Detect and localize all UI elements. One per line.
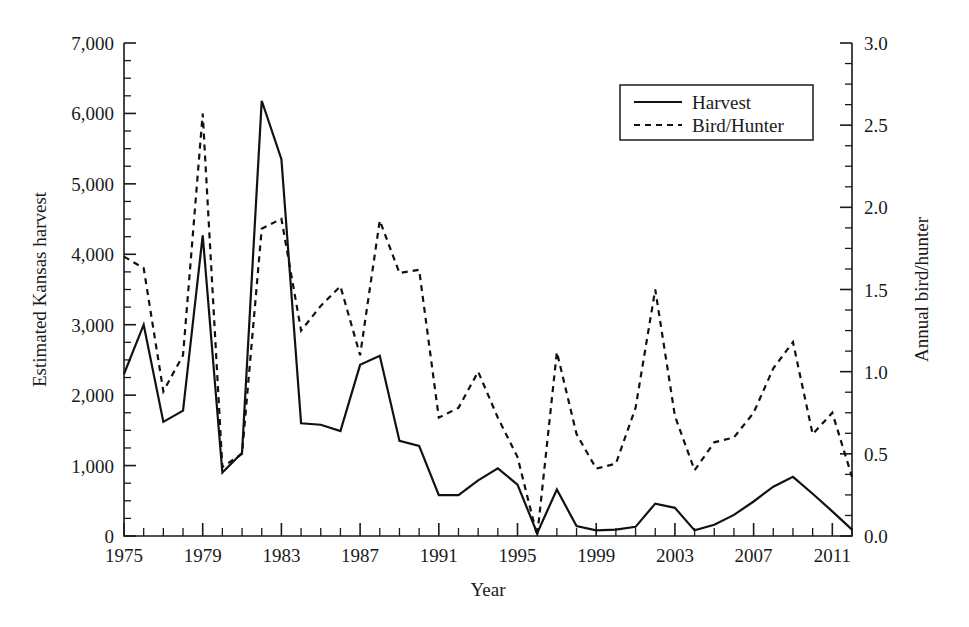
x-axis-tick-label: 1979	[184, 545, 222, 566]
series-line-harvest	[124, 101, 852, 533]
x-axis-tick-label: 2007	[735, 545, 773, 566]
axis-titles: Estimated Kansas harvestAnnual bird/hunt…	[29, 191, 932, 600]
y-axis-tick-label: 1,000	[71, 456, 114, 477]
x-axis-tick-label: 1991	[420, 545, 458, 566]
y-axis-tick-label: 5,000	[71, 174, 114, 195]
data-series	[124, 101, 852, 536]
x-axis-tick-label: 2011	[814, 545, 851, 566]
legend-label-bird-hunter: Bird/Hunter	[692, 115, 784, 136]
y2-axis-tick-label: 1.0	[864, 362, 888, 383]
y2-axis-title: Annual bird/hunter	[911, 216, 932, 362]
x-axis-tick-label: 1987	[341, 545, 379, 566]
y2-axis-tick-label: 0.5	[864, 444, 888, 465]
x-axis-tick-label: 1995	[499, 545, 537, 566]
y2-axis-tick-label: 3.0	[864, 33, 888, 54]
line-chart: 01,0002,0003,0004,0005,0006,0007,0000.00…	[0, 0, 969, 627]
y-axis-title: Estimated Kansas harvest	[29, 191, 50, 387]
y-axis-tick-label: 0	[105, 526, 115, 547]
legend-label-harvest: Harvest	[692, 92, 752, 113]
series-line-bird-hunter	[124, 114, 852, 536]
chart-container: 01,0002,0003,0004,0005,0006,0007,0000.00…	[0, 0, 969, 627]
chart-legend: HarvestBird/Hunter	[620, 85, 813, 140]
y2-axis-tick-label: 0.0	[864, 526, 888, 547]
y2-axis-tick-label: 1.5	[864, 280, 888, 301]
x-axis-tick-label: 1975	[105, 545, 143, 566]
y2-axis-tick-label: 2.0	[864, 197, 888, 218]
y-axis-tick-label: 4,000	[71, 244, 114, 265]
y-axis-tick-label: 6,000	[71, 103, 114, 124]
x-axis-tick-label: 1983	[262, 545, 300, 566]
y-axis-tick-label: 7,000	[71, 33, 114, 54]
y-axis-tick-label: 2,000	[71, 385, 114, 406]
x-axis-title: Year	[470, 579, 506, 600]
y-axis-tick-label: 3,000	[71, 315, 114, 336]
x-axis-tick-label: 2003	[656, 545, 694, 566]
x-axis-tick-label: 1999	[577, 545, 615, 566]
y2-axis-tick-label: 2.5	[864, 115, 888, 136]
